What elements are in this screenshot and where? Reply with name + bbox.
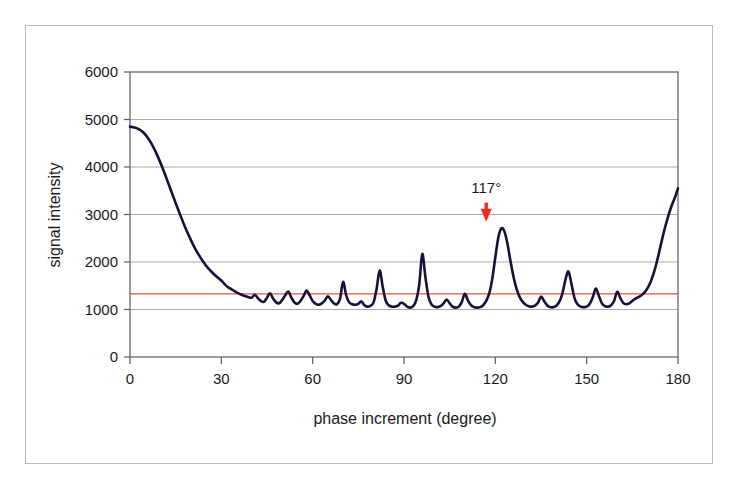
y-axis-ticks: 0100020003000400050006000 [85, 63, 130, 365]
annotation-label: 117° [471, 179, 501, 196]
annotation-arrow: 117° [471, 179, 501, 222]
x-tick-label: 90 [396, 370, 413, 387]
x-tick-label: 120 [483, 370, 508, 387]
x-tick-label: 150 [574, 370, 599, 387]
y-tick-label: 2000 [85, 253, 118, 270]
x-tick-label: 0 [126, 370, 134, 387]
y-tick-label: 5000 [85, 111, 118, 128]
y-tick-label: 6000 [85, 63, 118, 80]
x-tick-label: 60 [304, 370, 321, 387]
data-series [130, 127, 678, 308]
chart-canvas: 0100020003000400050006000 03060901201501… [0, 0, 738, 491]
x-axis-ticks: 0306090120150180 [126, 357, 691, 387]
y-tick-label: 4000 [85, 158, 118, 175]
annotation-arrow-head [481, 209, 492, 222]
series-line [130, 127, 678, 308]
x-tick-label: 30 [213, 370, 230, 387]
y-tick-label: 1000 [85, 301, 118, 318]
y-tick-label: 3000 [85, 206, 118, 223]
chart-figure: 0100020003000400050006000 03060901201501… [0, 0, 738, 491]
x-axis-title: phase increment (degree) [313, 410, 496, 427]
y-tick-label: 0 [110, 348, 118, 365]
x-tick-label: 180 [665, 370, 690, 387]
y-axis-title: signal intensity [46, 163, 63, 268]
